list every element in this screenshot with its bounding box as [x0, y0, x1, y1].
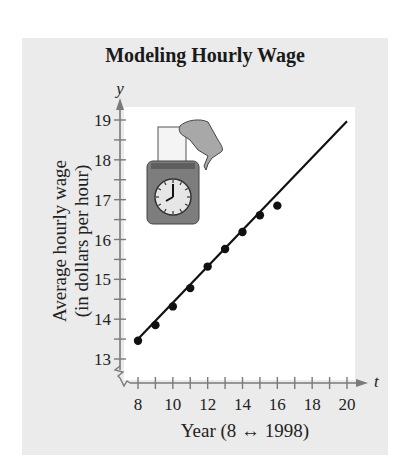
y-axis-arrow-icon: [116, 98, 124, 110]
axes: 13141516171819y8101214161820t: [94, 79, 380, 414]
x-tick-label: 18: [304, 395, 321, 414]
data-point: [169, 302, 177, 310]
x-axis-break-icon: [120, 378, 130, 386]
data-point: [238, 228, 246, 236]
y-tick-label: 14: [94, 310, 112, 329]
y-variable-label: y: [114, 79, 124, 98]
data-point: [221, 245, 229, 253]
data-point: [203, 262, 211, 270]
y-tick-label: 13: [94, 350, 111, 369]
data-point: [186, 284, 194, 292]
x-variable-label: t: [374, 372, 380, 391]
data-point: [273, 201, 281, 209]
y-tick-label: 15: [94, 270, 111, 289]
x-tick-label: 20: [339, 395, 356, 414]
x-tick-label: 10: [164, 395, 181, 414]
y-tick-label: 18: [94, 151, 111, 170]
x-axis-arrow-icon: [356, 379, 368, 387]
data-point: [151, 321, 159, 329]
data-point: [134, 336, 142, 344]
y-tick-label: 19: [94, 111, 111, 130]
x-tick-label: 12: [199, 395, 216, 414]
x-tick-label: 14: [234, 395, 252, 414]
y-tick-label: 17: [94, 191, 112, 210]
x-tick-label: 8: [134, 395, 143, 414]
x-tick-label: 16: [269, 395, 286, 414]
punch-clock-illustration: [147, 120, 222, 224]
chart-canvas: 13141516171819y8101214161820t: [0, 0, 416, 470]
data-point: [256, 211, 264, 219]
y-tick-label: 16: [94, 231, 111, 250]
axis-break-icon: [115, 366, 123, 378]
